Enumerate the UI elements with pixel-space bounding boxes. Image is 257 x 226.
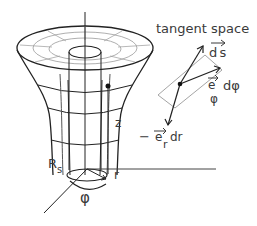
r-label: r [114,168,119,182]
dphi-label: dφ [223,78,240,93]
surface-point [106,84,111,89]
dr-label: dr [170,130,183,144]
minus-sign: − [139,129,150,144]
ds-label: d s [209,45,226,60]
z-label: z [115,116,121,130]
e-phi-subscript: φ [210,92,218,106]
e-r-subscript: r [163,138,168,151]
phi-label: φ [80,189,90,207]
embedding-diagram: tangent space d s e φ dφ − e r dr z r R … [0,0,257,226]
tangent-space-title: tangent space [156,21,249,36]
diagram-canvas: tangent space d s e φ dφ − e r dr z r R … [0,0,257,226]
rs-subscript: s [57,164,62,175]
r-vector [87,169,106,179]
e-phi-label: e [208,78,215,92]
e-r-label: e [155,130,162,144]
rs-label: R [48,156,57,171]
